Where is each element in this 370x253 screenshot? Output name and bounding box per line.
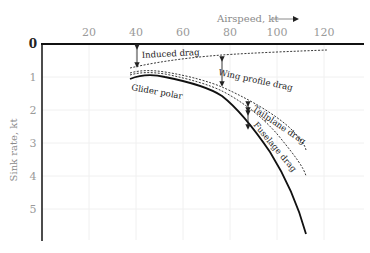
x-tick: 100 xyxy=(267,26,288,39)
wing-profile-drag-label: Wing profile drag xyxy=(218,67,295,93)
x-axis-title: Airspeed, kt xyxy=(216,13,278,24)
induced-drag-label: Induced drag xyxy=(142,47,201,60)
x-tick: 40 xyxy=(129,26,143,39)
y-tick: 4 xyxy=(30,170,37,183)
x-tick: 120 xyxy=(314,26,335,39)
y-tick: 5 xyxy=(30,203,37,216)
x-tick: 80 xyxy=(223,26,237,39)
glider-polar-diagram: 20 40 60 80 100 120 Airspeed, kt 0 1 2 3… xyxy=(0,0,370,253)
x-tick-labels: 20 40 60 80 100 120 xyxy=(82,26,335,39)
glider-polar-label: Glider polar xyxy=(131,82,185,101)
y-tick: 3 xyxy=(30,137,37,150)
y-tick: 2 xyxy=(30,104,37,117)
y-tick-labels: 1 2 3 4 5 xyxy=(30,71,37,216)
y-axis-title: Sink rate, kt xyxy=(8,119,19,182)
x-tick: 60 xyxy=(176,26,190,39)
x-tick: 20 xyxy=(82,26,96,39)
y-tick-zero: 0 xyxy=(29,37,37,51)
grid xyxy=(42,44,364,240)
y-tick: 1 xyxy=(30,71,37,84)
